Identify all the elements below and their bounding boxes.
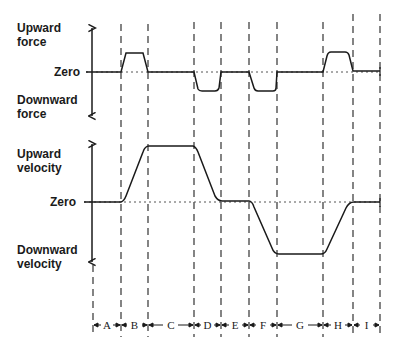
interval-label-f: F [260,319,266,331]
interval-label-b: B [131,319,138,331]
diagram-canvas [0,0,401,351]
velocity-down-label-line1: Downward [17,243,78,257]
velocity-curve [84,146,380,254]
velocity-zero-label: Zero [26,195,76,209]
interval-label-i: I [365,319,369,331]
force-zero-label: Zero [30,65,80,79]
force-down-label-line1: Downward [17,93,78,107]
force-down-label-line2: force [17,107,78,121]
velocity-down-label-line2: velocity [17,257,78,271]
force-curve [86,52,380,91]
velocity-down-label: Downward velocity [17,243,78,271]
interval-label-e: E [232,319,239,331]
force-up-label-line2: force [17,35,61,49]
interval-label-c: C [167,319,174,331]
velocity-up-label: Upward velocity [17,147,62,175]
interval-label-d: D [204,319,212,331]
interval-boundaries [93,14,380,337]
interval-label-h: H [334,319,342,331]
force-up-label-line1: Upward [17,21,61,35]
force-up-label: Upward force [17,21,61,49]
interval-label-g: G [296,319,304,331]
force-down-label: Downward force [17,93,78,121]
velocity-axis [84,144,380,262]
velocity-up-label-line2: velocity [17,161,62,175]
interval-label-a: A [103,319,111,331]
velocity-up-label-line1: Upward [17,147,62,161]
